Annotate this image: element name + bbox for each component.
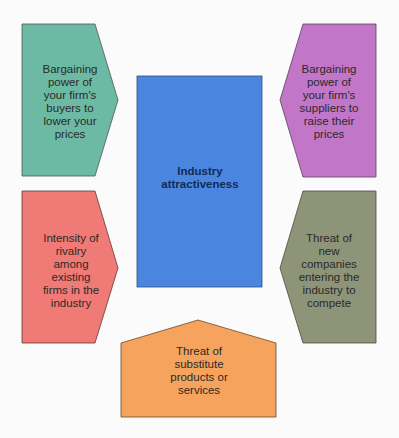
rivalry-force-label: Intensity of rivalry among existing firm… bbox=[40, 232, 102, 310]
new-entrants-force-label: Threat of new companies entering the ind… bbox=[296, 232, 362, 310]
center-label-line2: attractiveness bbox=[140, 178, 260, 191]
buyers-force-label: Bargaining power of your firm's buyers t… bbox=[40, 63, 100, 141]
center-label-line1: Industry bbox=[140, 165, 260, 178]
industry-attractiveness-label: Industry attractiveness bbox=[140, 165, 260, 191]
suppliers-force-label: Bargaining power of your firm's supplier… bbox=[298, 63, 360, 141]
substitutes-force-label: Threat of substitute products or service… bbox=[164, 345, 234, 397]
